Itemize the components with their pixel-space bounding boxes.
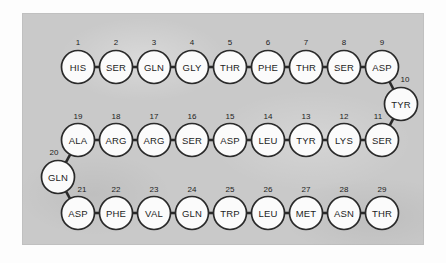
residue-number-2: 2 bbox=[114, 38, 119, 47]
residue-number-16: 16 bbox=[188, 112, 197, 121]
residue-node-12[interactable]: LYS12 bbox=[328, 112, 361, 157]
residue-number-5: 5 bbox=[228, 38, 233, 47]
residue-node-19[interactable]: ALA19 bbox=[62, 112, 95, 157]
residue-node-27[interactable]: MET27 bbox=[290, 185, 323, 230]
residue-number-6: 6 bbox=[266, 38, 271, 47]
residue-code-10: TYR bbox=[391, 99, 411, 110]
residue-code-16: SER bbox=[182, 135, 202, 146]
residue-code-11: SER bbox=[372, 135, 392, 146]
residue-code-17: ARG bbox=[143, 135, 164, 146]
residue-number-27: 27 bbox=[302, 185, 311, 194]
residue-number-12: 12 bbox=[340, 112, 349, 121]
residue-node-25[interactable]: TRP25 bbox=[214, 185, 247, 230]
residue-code-23: VAL bbox=[145, 208, 163, 219]
peptide-bond-9-10 bbox=[389, 81, 393, 90]
residue-code-5: THR bbox=[220, 62, 240, 73]
residue-code-22: PHE bbox=[106, 208, 126, 219]
residue-number-15: 15 bbox=[226, 112, 235, 121]
residue-code-15: ASP bbox=[220, 135, 240, 146]
residue-number-17: 17 bbox=[150, 112, 159, 121]
residue-number-29: 29 bbox=[378, 185, 387, 194]
residue-node-17[interactable]: ARG17 bbox=[138, 112, 171, 157]
residue-code-18: ARG bbox=[105, 135, 126, 146]
residue-code-2: SER bbox=[106, 62, 126, 73]
residue-node-28[interactable]: ASN28 bbox=[328, 185, 361, 230]
residue-number-23: 23 bbox=[150, 185, 159, 194]
residue-code-8: SER bbox=[334, 62, 354, 73]
residue-code-21: ASP bbox=[68, 208, 88, 219]
residue-node-1[interactable]: HIS1 bbox=[62, 38, 95, 84]
residue-code-26: LEU bbox=[258, 208, 277, 219]
residue-code-24: GLN bbox=[182, 208, 202, 219]
residue-number-3: 3 bbox=[152, 38, 157, 47]
residue-code-25: TRP bbox=[220, 208, 240, 219]
residue-number-18: 18 bbox=[112, 112, 121, 121]
residue-number-7: 7 bbox=[304, 38, 309, 47]
residue-number-20: 20 bbox=[50, 148, 59, 157]
residue-number-28: 28 bbox=[340, 185, 349, 194]
peptide-bond-19-20 bbox=[66, 154, 71, 163]
residue-code-28: ASN bbox=[334, 208, 354, 219]
residue-code-14: LEU bbox=[258, 135, 277, 146]
residue-node-14[interactable]: LEU14 bbox=[252, 112, 285, 157]
residue-code-20: GLN bbox=[48, 172, 68, 183]
residue-node-5[interactable]: THR5 bbox=[214, 38, 247, 84]
residue-node-24[interactable]: GLN24 bbox=[176, 185, 209, 230]
residue-code-29: THR bbox=[372, 208, 392, 219]
residue-code-13: TYR bbox=[296, 135, 316, 146]
residue-node-7[interactable]: THR7 bbox=[290, 38, 323, 84]
residue-node-2[interactable]: SER2 bbox=[100, 38, 133, 84]
residue-node-13[interactable]: TYR13 bbox=[290, 112, 323, 157]
residue-code-4: GLY bbox=[183, 62, 202, 73]
residue-number-24: 24 bbox=[188, 185, 197, 194]
residue-number-22: 22 bbox=[112, 185, 121, 194]
residue-number-9: 9 bbox=[380, 38, 385, 47]
residue-code-6: PHE bbox=[258, 62, 278, 73]
residue-node-23[interactable]: VAL23 bbox=[138, 185, 171, 230]
residue-node-8[interactable]: SER8 bbox=[328, 38, 361, 84]
residue-node-6[interactable]: PHE6 bbox=[252, 38, 285, 84]
residue-code-19: ALA bbox=[69, 135, 88, 146]
peptide-chain-diagram: HIS1SER2GLN3GLY4THR5PHE6THR7SER8ASP9TYR1… bbox=[0, 0, 446, 263]
residue-number-26: 26 bbox=[264, 185, 273, 194]
residue-number-4: 4 bbox=[190, 38, 195, 47]
residue-number-10: 10 bbox=[401, 75, 410, 84]
residue-number-21: 21 bbox=[78, 185, 87, 194]
residue-node-4[interactable]: GLY4 bbox=[176, 38, 209, 84]
residue-code-7: THR bbox=[296, 62, 316, 73]
residue-node-3[interactable]: GLN3 bbox=[138, 38, 171, 84]
residue-number-1: 1 bbox=[76, 38, 81, 47]
residue-node-29[interactable]: THR29 bbox=[366, 185, 399, 230]
residue-node-18[interactable]: ARG18 bbox=[100, 112, 133, 157]
residue-number-14: 14 bbox=[264, 112, 273, 121]
residue-code-9: ASP bbox=[372, 62, 392, 73]
residue-number-19: 19 bbox=[74, 112, 83, 121]
residue-code-27: MET bbox=[296, 208, 317, 219]
figure-root: HIS1SER2GLN3GLY4THR5PHE6THR7SER8ASP9TYR1… bbox=[0, 0, 446, 263]
residue-node-22[interactable]: PHE22 bbox=[100, 185, 133, 230]
residue-number-25: 25 bbox=[226, 185, 235, 194]
residue-node-16[interactable]: SER16 bbox=[176, 112, 209, 157]
residue-number-13: 13 bbox=[302, 112, 311, 121]
residue-code-1: HIS bbox=[70, 62, 86, 73]
residue-code-12: LYS bbox=[335, 135, 353, 146]
residue-node-26[interactable]: LEU26 bbox=[252, 185, 285, 230]
residue-code-3: GLN bbox=[144, 62, 164, 73]
residue-number-8: 8 bbox=[342, 38, 347, 47]
residue-node-15[interactable]: ASP15 bbox=[214, 112, 247, 157]
residue-node-9[interactable]: ASP9 bbox=[366, 38, 399, 84]
peptide-bond-20-21 bbox=[66, 191, 70, 199]
residue-number-11: 11 bbox=[374, 112, 383, 121]
